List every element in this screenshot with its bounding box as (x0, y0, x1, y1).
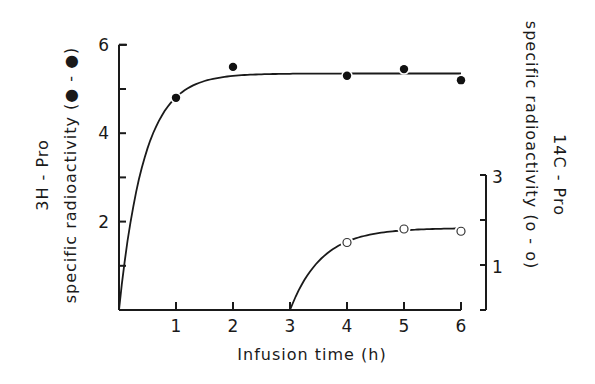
right-y-axis-title-line2: specific radioactivity (o - o) (522, 21, 541, 269)
open-circle-marker (343, 239, 351, 247)
filled-circle-marker (457, 76, 465, 84)
left-y-axis-title-line2: specific radioactivity (● - ●) (61, 47, 80, 304)
right-y-axis-title: 14C - Pro specific radioactivity (o - o) (522, 21, 569, 269)
filled-circle-marker (400, 65, 408, 73)
x-tick-label: 1 (171, 316, 182, 336)
fit-curves (119, 74, 461, 311)
x-tick-label: 6 (456, 316, 467, 336)
right-y-axis-title-line1: 14C - Pro (550, 134, 569, 216)
left-y-tick-label: 4 (98, 123, 109, 143)
x-tick-label: 5 (399, 316, 410, 336)
left-y-tick-label: 6 (98, 35, 109, 55)
fit-curve-14c-pro (290, 229, 461, 311)
fit-curve-3h-pro (119, 74, 461, 311)
right-y-tick-label: 1 (492, 257, 503, 277)
filled-circle-marker (343, 72, 351, 80)
left-y-axis-title-line1: 3H - Pro (33, 139, 52, 211)
chart: 24612345613 Infusion time (h) 3H - Pro s… (0, 0, 595, 384)
left-y-axis-title: 3H - Pro specific radioactivity (● - ●) (33, 47, 80, 304)
x-tick-label: 4 (342, 316, 353, 336)
x-tick-label: 3 (285, 316, 296, 336)
filled-circle-marker (172, 94, 180, 102)
x-tick-label: 2 (228, 316, 239, 336)
left-y-tick-label: 2 (98, 212, 109, 232)
filled-circle-marker (229, 63, 237, 71)
x-axis-title: Infusion time (h) (237, 345, 386, 364)
tick-labels: 24612345613 (98, 35, 503, 336)
open-circle-marker (457, 227, 465, 235)
open-circle-marker (400, 225, 408, 233)
data-points (172, 62, 467, 247)
right-y-tick-label: 3 (492, 167, 503, 187)
axes (119, 45, 486, 310)
